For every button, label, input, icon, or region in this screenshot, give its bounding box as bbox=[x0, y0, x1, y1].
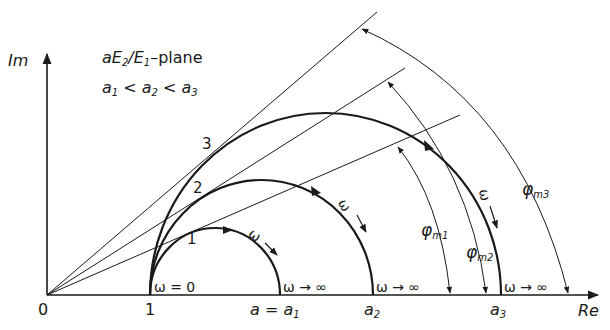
a2-label: a2 bbox=[364, 302, 380, 320]
a3-sub: 3 bbox=[500, 309, 506, 320]
plane-title: aE2/E1–plane bbox=[102, 50, 203, 68]
cond-a2: a bbox=[142, 78, 152, 97]
curve-1-label: 1 bbox=[187, 232, 197, 247]
cond-s3: 3 bbox=[191, 87, 197, 98]
cond-a3: a bbox=[182, 78, 192, 97]
omega-symbol-3: ω bbox=[477, 188, 493, 202]
title-e1: E bbox=[134, 48, 144, 67]
omega-inf-label-2: ω → ∞ bbox=[376, 280, 420, 294]
phi-m3-sub: m3 bbox=[533, 189, 549, 200]
omega-inf-label-1: ω → ∞ bbox=[283, 280, 327, 294]
title-e2: E bbox=[112, 48, 122, 67]
title-suffix: –plane bbox=[150, 48, 202, 67]
direction-arrow-curve-1 bbox=[223, 226, 233, 234]
one-label: 1 bbox=[145, 302, 155, 318]
a1-prefix: a = a bbox=[250, 300, 293, 319]
phi-m3-label: φm3 bbox=[522, 181, 549, 200]
omega-zero-label: ω = 0 bbox=[154, 280, 195, 294]
tangent-line-3 bbox=[47, 12, 377, 295]
omega-arrow-3 bbox=[490, 206, 497, 228]
re-axis-label: Re bbox=[578, 303, 599, 319]
phi-m1-sub: m1 bbox=[432, 230, 448, 241]
curve-2-label: 2 bbox=[193, 181, 203, 196]
a1-sub: 1 bbox=[293, 309, 299, 320]
phi-m1-symbol: φ bbox=[421, 220, 432, 240]
origin-label: 0 bbox=[38, 302, 48, 318]
title-a: a bbox=[102, 48, 112, 67]
phi-m1-label: φm1 bbox=[421, 222, 448, 241]
im-axis-label: Im bbox=[8, 53, 28, 69]
a1-label: a = a1 bbox=[250, 302, 300, 320]
phi-m3-arc bbox=[362, 29, 568, 293]
tangent-line-1 bbox=[47, 115, 460, 295]
curve-3-label: 3 bbox=[202, 137, 212, 152]
condition-text: a1 < a2 < a3 bbox=[102, 80, 198, 98]
phi-m2-symbol: φ bbox=[466, 242, 477, 262]
phi-m2-sub: m2 bbox=[477, 252, 493, 263]
a3-prefix: a bbox=[490, 300, 500, 319]
a3-label: a3 bbox=[490, 302, 506, 320]
a2-sub: 2 bbox=[374, 309, 380, 320]
omega-inf-label-3: ω → ∞ bbox=[504, 280, 548, 294]
direction-arrow-curve-2 bbox=[311, 186, 321, 196]
cond-a1: a bbox=[102, 78, 112, 97]
a2-prefix: a bbox=[364, 300, 374, 319]
phi-m2-label: φm2 bbox=[466, 244, 493, 263]
tangent-line-2 bbox=[47, 68, 405, 295]
cond-lt2: < bbox=[158, 78, 182, 97]
phi-m3-symbol: φ bbox=[522, 179, 533, 199]
omega-arrow-2 bbox=[357, 215, 366, 232]
cond-lt1: < bbox=[118, 78, 142, 97]
